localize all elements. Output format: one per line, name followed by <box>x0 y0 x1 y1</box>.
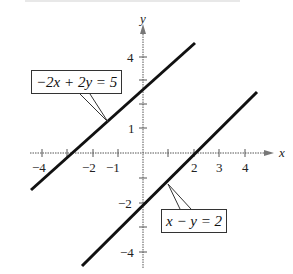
tick-label-y-1: 1 <box>128 122 135 135</box>
tick-label-x-neg2: −2 <box>82 161 96 174</box>
tick-label-x-neg4: −4 <box>32 161 46 174</box>
equation-label-2: x − y = 2 <box>161 209 227 233</box>
line-chart <box>0 0 293 274</box>
tick-label-y-4: 4 <box>127 51 134 64</box>
y-axis-label: y <box>140 12 146 25</box>
tick-label-x-neg1: −1 <box>106 161 120 174</box>
tick-label-x-4: 4 <box>242 161 249 174</box>
tick-label-x-2: 2 <box>191 161 198 174</box>
x-axis-arrow-icon <box>264 150 274 156</box>
equation-label-1: −2x + 2y = 5 <box>31 70 122 94</box>
callout-pointer-eq1 <box>80 94 108 122</box>
tick-label-y-neg4: −4 <box>120 246 134 259</box>
x-axis-label: x <box>279 146 285 159</box>
tick-label-x-3: 3 <box>216 161 223 174</box>
callout-pointer-eq2 <box>168 184 191 209</box>
line-eq2 <box>82 92 257 266</box>
tick-label-y-neg2: −2 <box>118 197 132 210</box>
